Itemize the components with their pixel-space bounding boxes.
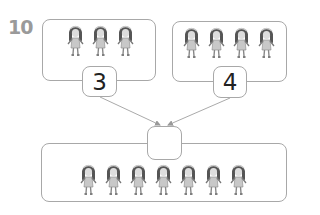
girl-figure-icon (204, 163, 223, 196)
girl-figure-icon (129, 163, 148, 196)
girl-figure-icon (229, 163, 248, 196)
girl-figure-icon (79, 163, 98, 196)
arrow-right-icon (168, 98, 230, 125)
girl-figure-icon (154, 163, 173, 196)
total-group-figures (79, 163, 248, 196)
arrow-left-icon (100, 97, 160, 125)
girl-figure-icon (104, 163, 123, 196)
total-answer-box[interactable] (147, 126, 182, 160)
girl-figure-icon (179, 163, 198, 196)
